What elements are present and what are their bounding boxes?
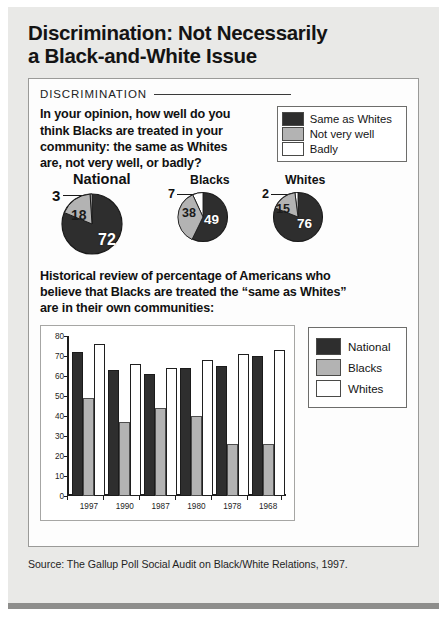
poll-question-line-3: community: the same as Whites [40, 139, 277, 155]
bar-group [252, 350, 285, 496]
pie-legend-swatch-badly [282, 142, 304, 156]
y-axis-tick-label: 80 [55, 331, 64, 340]
page-title: Discrimination: Not Necessarily a Black-… [28, 21, 419, 67]
bar-national-1968 [252, 356, 263, 496]
y-axis-tick-label: 30 [55, 431, 64, 440]
pie-legend-item-same-as-whites: Same as Whites [282, 112, 400, 126]
bar-chart-legend: National Blacks Whites [308, 327, 407, 408]
y-axis [67, 336, 69, 496]
source-note: Source: The Gallup Poll Social Audit on … [28, 558, 419, 570]
bar-national-1978 [216, 366, 227, 496]
y-axis-tick-mark [64, 376, 67, 377]
bar-legend-label-national: National [348, 340, 391, 353]
pie-legend: Same as Whites Not very well Badly [277, 106, 407, 162]
pie-title-whites: Whites [285, 173, 325, 187]
bar-chart: 0102030405060708019971990198719801978196… [40, 325, 295, 521]
bar-whites-1987 [166, 368, 177, 496]
page-title-line-2: a Black-and-White Issue [28, 44, 419, 67]
y-axis-tick-label: 50 [55, 391, 64, 400]
y-axis-tick-mark [64, 476, 67, 477]
pie-title-national: National [73, 171, 131, 187]
bar-blacks-1978 [227, 444, 238, 496]
bar-legend-swatch-blacks [316, 359, 341, 376]
bar-blacks-1990 [119, 422, 130, 496]
y-axis-tick-label: 20 [55, 451, 64, 460]
pie-title-blacks: Blacks [190, 173, 230, 187]
bar-legend-item-whites: Whites [316, 380, 399, 397]
x-axis-tick-mark [139, 496, 140, 500]
bar-whites-1990 [130, 364, 141, 496]
bar-blacks-1980 [191, 416, 202, 496]
bottom-rule [8, 603, 439, 609]
pie-legend-swatch-same-as-whites [282, 112, 304, 126]
y-axis-tick-mark [64, 336, 67, 337]
bar-whites-1980 [202, 360, 213, 496]
kicker-divider [154, 94, 291, 95]
bar-group [72, 344, 105, 496]
y-axis-tick-mark [64, 416, 67, 417]
x-axis-tick-mark [211, 496, 212, 500]
pie-legend-label-badly: Badly [310, 143, 338, 155]
bar-blacks-1997 [83, 398, 94, 496]
section-kicker: DISCRIMINATION [40, 88, 147, 100]
page-content: Discrimination: Not Necessarily a Black-… [8, 7, 439, 609]
pie-value-same-as-whites-whites: 76 [297, 216, 312, 231]
pie-value-not-very-well-blacks: 38 [182, 206, 196, 220]
poll-question-line-2: think Blacks are treated in your [40, 123, 277, 139]
pie-callout-badly-blacks: 7 [168, 187, 175, 201]
x-axis-tick-mark [175, 496, 176, 500]
y-axis-tick-mark [64, 436, 67, 437]
bar-whites-1968 [274, 350, 285, 496]
x-axis-tick-label: 1990 [116, 502, 134, 511]
bar-group [144, 368, 177, 496]
y-axis-tick-label: 60 [55, 371, 64, 380]
poll-question: In your opinion, how well do you think B… [40, 106, 277, 171]
bar-group [216, 354, 249, 496]
pie-legend-label-not-very-well: Not very well [310, 128, 375, 140]
x-axis-tick-mark [281, 496, 282, 500]
bar-national-1997 [72, 352, 83, 496]
page-title-line-1: Discrimination: Not Necessarily [28, 21, 419, 44]
bar-legend-label-blacks: Blacks [348, 361, 382, 374]
historical-subhead-line-2: believe that Blacks are treated the “sam… [40, 284, 407, 300]
y-axis-tick-label: 70 [55, 351, 64, 360]
x-axis-tick-label: 1997 [80, 502, 98, 511]
bar-legend-item-national: National [316, 338, 399, 355]
bar-group [180, 360, 213, 496]
pie-chart-group: National 3 18 72 Blacks 7 [40, 174, 407, 260]
bar-whites-1978 [238, 354, 249, 496]
bar-legend-swatch-whites [316, 380, 341, 397]
historical-subhead: Historical review of percentage of Ameri… [40, 268, 407, 317]
y-axis-tick-mark [64, 456, 67, 457]
y-axis-tick-mark [64, 356, 67, 357]
y-axis-tick-label: 40 [55, 411, 64, 420]
x-axis-tick-label: 1968 [259, 502, 277, 511]
pie-legend-item-badly: Badly [282, 142, 400, 156]
historical-subhead-line-1: Historical review of percentage of Ameri… [40, 268, 407, 284]
pie-callout-badly-whites: 2 [262, 187, 269, 201]
y-axis-tick-mark [64, 396, 67, 397]
bar-national-1980 [180, 368, 191, 496]
pie-value-not-very-well-national: 18 [71, 207, 87, 223]
question-legend-row: In your opinion, how well do you think B… [40, 106, 407, 171]
bar-whites-1997 [94, 344, 105, 496]
bar-legend-swatch-national [316, 338, 341, 355]
section-kicker-row: DISCRIMINATION [40, 88, 291, 100]
bar-group [108, 364, 141, 496]
pie-legend-swatch-not-very-well [282, 127, 304, 141]
bar-chart-row: 0102030405060708019971990198719801978196… [40, 325, 407, 521]
x-axis-tick-label: 1980 [187, 502, 205, 511]
y-axis-tick-label: 10 [55, 471, 64, 480]
pie-legend-label-same-as-whites: Same as Whites [310, 113, 392, 125]
bar-blacks-1987 [155, 408, 166, 496]
pie-legend-item-not-very-well: Not very well [282, 127, 400, 141]
bar-chart-plot-area: 0102030405060708019971990198719801978196… [67, 336, 286, 496]
poll-question-line-1: In your opinion, how well do you [40, 106, 277, 122]
poll-question-line-4: are, not very well, or badly? [40, 155, 277, 171]
chart-card: DISCRIMINATION In your opinion, how well… [28, 78, 419, 547]
bar-national-1990 [108, 370, 119, 496]
poster-page: Discrimination: Not Necessarily a Black-… [8, 7, 439, 609]
pie-value-same-as-whites-blacks: 49 [204, 212, 219, 227]
x-axis-tick-mark [103, 496, 104, 500]
historical-subhead-line-3: are in their own communities: [40, 300, 407, 316]
